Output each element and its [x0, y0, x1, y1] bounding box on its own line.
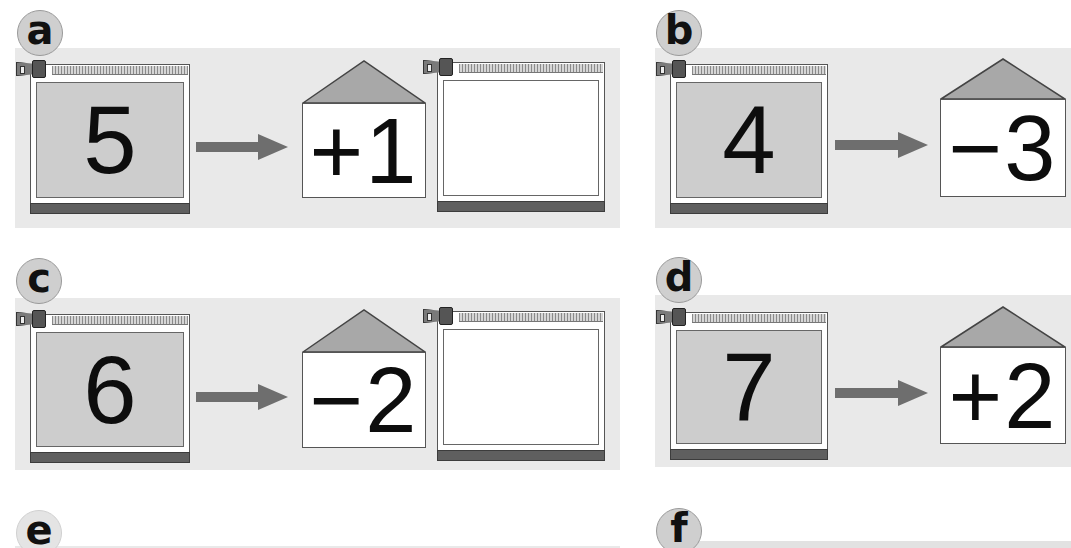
- roof-icon: [302, 60, 426, 104]
- panel-b-label: b: [656, 10, 702, 56]
- panel-f-label: f: [656, 508, 702, 548]
- panel-b-start-number: 4: [676, 82, 822, 198]
- panel-b-operation-card: −3: [940, 58, 1066, 197]
- zipper-teeth-icon: [692, 66, 826, 75]
- zipper-teeth-icon: [692, 314, 826, 323]
- panel-b-start-bag: 4: [670, 64, 828, 214]
- panel-d-label: d: [656, 257, 702, 303]
- panel-c-operation-card: −2: [302, 309, 426, 448]
- bag-bottom-bar: [437, 201, 605, 212]
- panel-a-arrow-icon: [196, 134, 288, 160]
- panel-c-result[interactable]: [443, 329, 599, 445]
- panel-b-arrow-icon: [835, 132, 928, 158]
- bag-bottom-bar: [30, 452, 190, 463]
- zipper-pull-icon: [656, 60, 694, 78]
- zipper-teeth-icon: [52, 316, 188, 325]
- panel-c-arrow-icon: [196, 384, 288, 410]
- bag-bottom-bar: [437, 450, 605, 461]
- panel-d-operation-card: +2: [940, 306, 1066, 444]
- panel-a-label: a: [17, 10, 63, 56]
- zipper-pull-icon: [656, 308, 694, 326]
- panel-b-operation: −3: [940, 99, 1066, 197]
- panel-c-label: c: [16, 258, 62, 304]
- panel-e-label: e: [16, 510, 62, 548]
- panel-c-start-number: 6: [36, 332, 184, 447]
- panel-a-operation: +1: [302, 103, 426, 198]
- zipper-teeth-icon: [459, 64, 603, 73]
- panel-a-result-bag[interactable]: [437, 62, 605, 212]
- bag-bottom-bar: [670, 449, 828, 460]
- roof-icon: [940, 306, 1066, 348]
- panel-d-operation: +2: [940, 347, 1066, 444]
- zipper-pull-icon: [16, 310, 54, 328]
- panel-d-start-bag: 7: [670, 312, 828, 460]
- zipper-pull-icon: [16, 60, 54, 78]
- panel-a-start-number: 5: [36, 82, 184, 198]
- panel-c-start-bag: 6: [30, 314, 190, 463]
- panel-a-result[interactable]: [443, 80, 599, 196]
- panel-c-result-bag[interactable]: [437, 311, 605, 461]
- zipper-pull-icon: [423, 58, 461, 76]
- zipper-teeth-icon: [459, 313, 603, 322]
- roof-icon: [302, 309, 426, 353]
- bag-bottom-bar: [670, 203, 828, 214]
- panel-c-operation: −2: [302, 352, 426, 448]
- zipper-teeth-icon: [52, 66, 188, 75]
- roof-icon: [940, 58, 1066, 100]
- panel-d-start-number: 7: [676, 330, 822, 444]
- panel-a-start-bag: 5: [30, 64, 190, 214]
- panel-d-arrow-icon: [835, 380, 928, 406]
- panel-a-operation-card: +1: [302, 60, 426, 198]
- panel-f-background: [695, 541, 1071, 548]
- bag-bottom-bar: [30, 203, 190, 214]
- zipper-pull-icon: [423, 307, 461, 325]
